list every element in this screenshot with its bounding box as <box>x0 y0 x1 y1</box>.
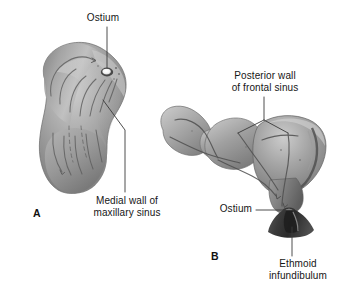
panel-letter-b: B <box>211 250 219 262</box>
label-ostium-maxillary: Ostium <box>73 12 133 24</box>
label-posterior-wall-frontal-sinus: Posterior wall of frontal sinus <box>206 70 324 93</box>
label-ostium-frontal: Ostium <box>200 203 252 215</box>
anatomical-figure: Ostium Medial wall of maxillary sinus Po… <box>0 0 339 289</box>
figure-artwork <box>0 0 339 289</box>
panel-a-maxillary-cast <box>39 42 126 193</box>
panel-b-frontal-cast <box>161 106 326 238</box>
panel-letter-a: A <box>33 207 41 219</box>
label-ethmoid-infundibulum: Ethmoid infundibulum <box>258 258 338 281</box>
label-medial-wall-maxillary-sinus: Medial wall of maxillary sinus <box>75 195 179 218</box>
maxillary-ostium <box>102 69 110 75</box>
